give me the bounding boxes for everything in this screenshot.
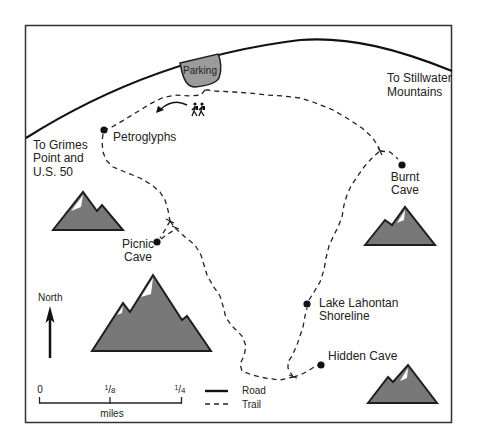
dot-marker-icon[interactable] — [100, 126, 107, 133]
label-line: To Stillwater — [387, 71, 452, 85]
label-line: Burnt — [391, 170, 420, 184]
label-line: Shoreline — [319, 309, 370, 323]
legend-trail-label: Trail — [242, 399, 261, 410]
label-picnic-cave: Picnic Cave — [122, 237, 154, 264]
parking-label: Parking — [183, 65, 217, 76]
dot-marker-icon[interactable] — [398, 161, 405, 168]
label-to-stillwater: To Stillwater Mountains — [387, 71, 452, 99]
scale-label-zero: 0 — [37, 384, 43, 395]
dot-marker-icon[interactable] — [303, 300, 310, 307]
label-hidden-cave: Hidden Cave — [328, 349, 398, 363]
label-line: Cave — [124, 250, 152, 264]
legend-road-label: Road — [242, 385, 266, 396]
label-line: Mountains — [387, 85, 442, 99]
label-petroglyphs: Petroglyphs — [113, 130, 176, 144]
label-line: Point and — [33, 151, 84, 165]
scale-unit: miles — [100, 408, 123, 419]
compass-label: North — [38, 292, 62, 303]
dot-marker-icon[interactable] — [153, 238, 160, 245]
label-burnt-cave: Burnt Cave — [391, 170, 420, 197]
label-line: Picnic — [122, 237, 154, 251]
trail-map: Parking — [0, 0, 477, 447]
label-line: Cave — [391, 183, 419, 197]
dot-marker-icon[interactable] — [317, 361, 324, 368]
label-line: U.S. 50 — [33, 165, 73, 179]
label-line: Lake Lahontan — [319, 296, 398, 310]
label-line: To Grimes — [33, 138, 88, 152]
